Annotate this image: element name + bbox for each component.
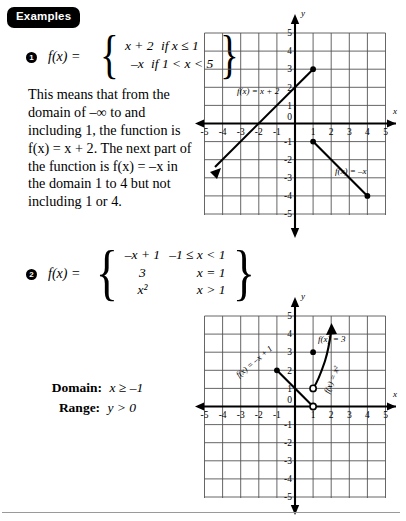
range-label: Range: (59, 400, 100, 415)
brace-right-icon: } (233, 253, 255, 291)
example-1-bullet-wrap: 1 f(x) = (26, 47, 80, 65)
example-1-explanation: This means that from the domain of –∞ to… (28, 86, 196, 211)
point-f-equals-3 (310, 349, 316, 355)
graph-1-x-axis-label: x (392, 106, 397, 116)
y-axis-arrow-icon (291, 14, 299, 24)
y-tick: -1 (284, 420, 292, 430)
domain-line: Domain: x ≥ –1 (0, 380, 195, 396)
graph-2-origin-label: 0 (287, 395, 292, 405)
piece-expression: –x + 1 (125, 246, 160, 264)
open-endpoint-circle (310, 385, 316, 391)
x-tick: 5 (383, 410, 388, 420)
x-tick: -4 (219, 410, 227, 420)
x-tick: -5 (201, 410, 209, 420)
y-tick: 4 (287, 46, 292, 56)
piece-expression: 3 (125, 264, 160, 282)
piece-condition: –1 ≤ x < 1 (169, 246, 225, 264)
x-tick: 1 (311, 410, 316, 420)
axes (195, 297, 396, 515)
domain-value: x ≥ –1 (105, 380, 143, 395)
graph-1-origin-label: 0 (287, 112, 292, 122)
y-axis-arrow-down-icon (291, 228, 299, 238)
x-tick: -5 (201, 127, 209, 137)
y-tick: 3 (287, 347, 292, 357)
example-1-number: 1 (26, 52, 37, 63)
x-tick: -1 (273, 410, 281, 420)
x-tick: -3 (237, 127, 245, 137)
closed-endpoint-dot (310, 349, 316, 355)
graph-2-curve-label-1: f(x) = –x + 1 (234, 343, 275, 379)
closed-endpoint-dot (365, 193, 371, 199)
example-2-bullet-wrap: 2 f(x) = (26, 264, 80, 282)
x-tick: 4 (365, 127, 370, 137)
axes (195, 14, 396, 238)
x-tick: 2 (329, 410, 334, 420)
x-tick: 5 (383, 127, 388, 137)
y-tick: 3 (287, 64, 292, 74)
piece-condition: x = 1 (169, 264, 225, 282)
y-axis-arrow-down-icon (291, 505, 299, 515)
y-tick: -5 (284, 209, 292, 219)
x-axis-arrow-icon (387, 119, 396, 127)
brace-left-icon: { (96, 253, 118, 291)
y-tick: -3 (284, 173, 292, 183)
range-value: y > 0 (104, 400, 137, 415)
y-axis-arrow-icon (291, 297, 299, 307)
graph-1-svg: y x 5 4 3 2 1 -1 -2 -3 -4 -5 0 -5 -4 -3 (190, 2, 406, 242)
domain-label: Domain: (52, 380, 102, 395)
y-tick: -4 (284, 191, 292, 201)
graph-2-x-axis-label: x (392, 389, 397, 399)
x-tick: 1 (311, 127, 316, 137)
example-2-fx-label: f(x) = (48, 266, 80, 281)
graph-2: y x 5 4 3 2 1 -1 -2 -3 -4 -5 0 -5 -4 -3 (190, 290, 406, 515)
x-tick: -4 (219, 127, 227, 137)
piece-expression: x + 2 (125, 38, 154, 53)
example-2-number: 2 (26, 269, 37, 280)
y-tick: 5 (287, 28, 292, 38)
graph-2-curve-label-2: f(x) = x² (322, 364, 342, 394)
worksheet-page: Examples 1 f(x) = { x + 2 if x ≤ 1 –x if… (0, 0, 406, 521)
y-tick: 1 (287, 101, 292, 111)
x-tick: 3 (347, 410, 352, 420)
x-tick: 4 (365, 410, 370, 420)
graph-1-curve-label-2: f(x) = –x (335, 166, 367, 176)
y-tick: -5 (284, 492, 292, 502)
y-tick: -3 (284, 456, 292, 466)
bottom-divider (2, 512, 400, 513)
x-tick: 2 (329, 127, 334, 137)
brace-left-icon: { (100, 39, 119, 71)
graph-1: y x 5 4 3 2 1 -1 -2 -3 -4 -5 0 -5 -4 -3 (190, 2, 406, 242)
closed-endpoint-dot (274, 367, 280, 373)
examples-badge: Examples (7, 7, 80, 28)
graph-2-svg: y x 5 4 3 2 1 -1 -2 -3 -4 -5 0 -5 -4 -3 (190, 290, 406, 515)
x-tick: 3 (347, 127, 352, 137)
closed-endpoint-dot (310, 139, 316, 145)
x-tick: -1 (273, 127, 281, 137)
range-line: Range: y > 0 (0, 400, 195, 416)
graph-2-curve-label-3: f(x) = 3 (318, 334, 346, 344)
y-tick: -1 (284, 137, 292, 147)
y-tick: 4 (287, 329, 292, 339)
closed-endpoint-dot (310, 66, 316, 72)
x-tick: -2 (255, 410, 263, 420)
x-axis-arrow-icon (387, 402, 396, 410)
piece-expression: x² (125, 281, 160, 299)
open-endpoint-circle (310, 403, 316, 409)
example-1-fx-label: f(x) = (48, 49, 80, 64)
y-tick: -2 (284, 438, 292, 448)
y-tick: 2 (287, 366, 292, 376)
graph-1-curve-label-1: f(x) = x + 2 (237, 86, 280, 96)
y-tick: -2 (284, 155, 292, 165)
y-tick: -4 (284, 474, 292, 484)
x-tick: -2 (255, 127, 263, 137)
graph-2-y-axis-label: y (300, 291, 305, 301)
y-tick: 5 (287, 311, 292, 321)
piece-expression: –x (131, 56, 144, 71)
graph-1-y-axis-label: y (300, 8, 305, 18)
x-tick: -3 (237, 410, 245, 420)
